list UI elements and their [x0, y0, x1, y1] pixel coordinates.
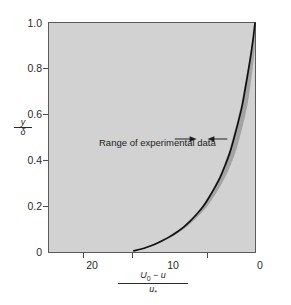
- x-tick-mark-25: [83, 253, 84, 258]
- x-tick-label-0: 0: [240, 260, 280, 271]
- x-axis-title-numerator: U0 − u: [118, 270, 188, 284]
- y-tick-label-0.4: 0.4: [2, 155, 42, 166]
- y-axis-title: y δ: [14, 118, 32, 138]
- y-tick-label-0.8: 0.8: [2, 63, 42, 74]
- x-tick-label-10: 10: [153, 260, 193, 271]
- y-tick-label-0.2: 0.2: [2, 201, 42, 212]
- x-tick-label-20: 20: [72, 260, 112, 271]
- x-tick-mark-5: [207, 253, 208, 258]
- y-tick-label-0: 0: [2, 247, 42, 258]
- x-axis-title-minus-u: − u: [151, 270, 166, 280]
- x-tick-mark-15: [132, 253, 133, 258]
- y-tick-label-1.0: 1.0: [2, 18, 42, 29]
- y-axis-title-denominator: δ: [14, 128, 32, 137]
- x-axis-title-denominator: u*: [118, 284, 188, 297]
- x-axis-title-ustar-subscript: *: [154, 289, 157, 296]
- annotation-range-of-experimental-data: Range of experimental data: [99, 138, 216, 148]
- figure-container: 1.0 0.8 0.6 0.4 0.2 0 y δ 20 10 0 U0 − u…: [0, 0, 291, 305]
- x-axis-title: U0 − u u*: [118, 270, 188, 297]
